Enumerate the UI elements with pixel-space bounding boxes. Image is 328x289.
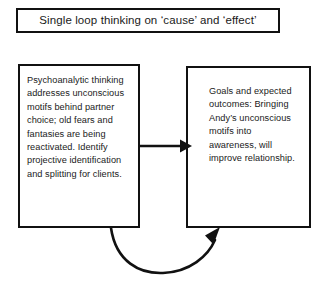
effect-feedback-loop-path	[111, 228, 215, 273]
node-effect-label: Goals and expected outcomes: Bringing An…	[209, 85, 301, 165]
page-title: Single loop thinking on ‘cause’ and ‘eff…	[39, 14, 256, 27]
diagram-canvas: Single loop thinking on ‘cause’ and ‘eff…	[0, 0, 328, 289]
diagram-title-box: Single loop thinking on ‘cause’ and ‘eff…	[16, 8, 280, 33]
effect-feedback-loop-arrow	[111, 227, 220, 273]
node-cause-label: Psychoanalytic thinking addresses uncons…	[27, 74, 131, 181]
node-cause-box: Psychoanalytic thinking addresses uncons…	[18, 64, 140, 228]
effect-feedback-arrowhead	[205, 227, 220, 245]
cause-to-effect-arrow	[140, 140, 192, 153]
node-effect-box: Goals and expected outcomes: Bringing An…	[186, 66, 311, 228]
